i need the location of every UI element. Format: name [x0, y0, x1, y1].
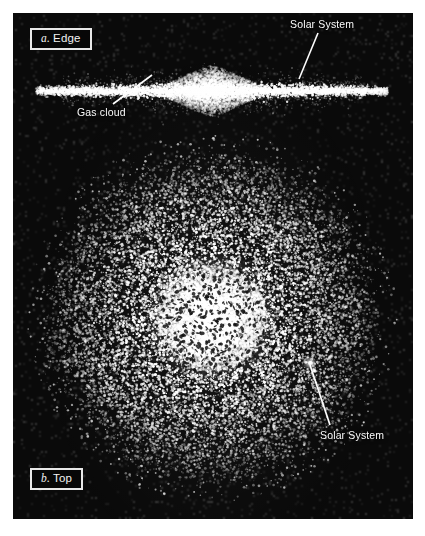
annotation-gas-cloud: Gas cloud — [77, 106, 126, 118]
annotation-solar-system-edge: Solar System — [290, 18, 354, 30]
annotation-solar-system-top: Solar System — [320, 429, 384, 441]
figure-plate: a.Edge b.Top Solar System Gas cloud Sola… — [13, 13, 413, 519]
panel-a-title: Edge — [53, 32, 81, 44]
panel-caption-b: b.Top — [30, 468, 83, 490]
panel-b-title: Top — [53, 472, 72, 484]
figure-page: a.Edge b.Top Solar System Gas cloud Sola… — [0, 0, 425, 536]
panel-caption-a: a.Edge — [30, 28, 92, 50]
top-view-starfield — [13, 133, 413, 519]
panel-b-index: b. — [41, 472, 53, 484]
panel-a-index: a. — [41, 32, 53, 44]
